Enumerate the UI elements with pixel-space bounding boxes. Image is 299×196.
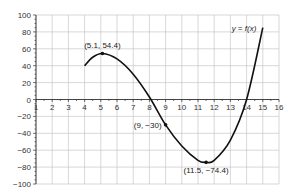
point-label: (5.1, 54.4) [84, 41, 121, 50]
y-tick-label: −60 [17, 146, 31, 155]
curve-label: y = f(x) [231, 24, 257, 33]
x-tick-label: 13 [226, 103, 235, 112]
x-tick-label: 2 [50, 103, 55, 112]
tick-labels: 12345678910111213141516100806040200−20−4… [13, 11, 284, 189]
x-tick-label: 16 [275, 103, 284, 112]
x-tick-label: 8 [147, 103, 152, 112]
y-tick-label: −40 [17, 129, 31, 138]
point-marker [101, 52, 105, 56]
y-tick-label: 80 [22, 28, 31, 37]
x-tick-label: 12 [210, 103, 219, 112]
point-label: (11.5, −74.4) [184, 166, 229, 175]
x-tick-label: 5 [99, 103, 104, 112]
y-tick-label: −20 [17, 112, 31, 121]
function-plot: 12345678910111213141516100806040200−20−4… [0, 0, 299, 196]
axes [33, 15, 279, 184]
y-tick-label: 0 [27, 96, 32, 105]
y-tick-label: −100 [13, 180, 32, 189]
y-tick-label: 60 [22, 45, 31, 54]
x-tick-label: 15 [258, 103, 267, 112]
x-tick-label: 9 [163, 103, 168, 112]
y-tick-label: 20 [22, 79, 31, 88]
x-tick-label: 1 [34, 103, 39, 112]
point-marker [204, 161, 208, 165]
y-tick-label: 100 [18, 11, 32, 20]
y-tick-label: −80 [17, 163, 31, 172]
y-tick-label: 40 [22, 62, 31, 71]
x-tick-label: 3 [66, 103, 71, 112]
x-tick-label: 11 [194, 103, 203, 112]
x-tick-label: 10 [177, 103, 186, 112]
point-marker [164, 123, 168, 127]
x-tick-label: 7 [131, 103, 136, 112]
x-tick-label: 6 [115, 103, 120, 112]
point-label: (9, −30) [134, 121, 162, 130]
x-tick-label: 4 [82, 103, 87, 112]
